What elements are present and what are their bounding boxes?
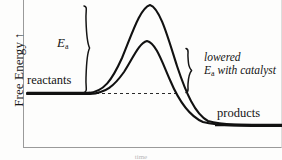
lowered-ea-symbol: E [204, 64, 211, 76]
lowered-line-1: lowered [204, 51, 241, 63]
lowered-ea-suffix: with catalyst [215, 64, 276, 76]
ea-symbol: E [57, 35, 65, 50]
lowered-ea-brace-icon [186, 49, 192, 93]
products-label: products [217, 107, 260, 120]
activation-energy-label: Ea [57, 36, 69, 51]
y-axis-title-text: Free Energy [11, 42, 26, 107]
y-axis-title: Free Energy↑ [12, 22, 26, 118]
ea-brace-icon [84, 6, 90, 93]
reactants-label: reactants [27, 74, 71, 87]
lowered-line-2: Ea with catalyst [204, 64, 276, 78]
ea-subscript: a [65, 42, 69, 51]
up-arrow-icon: ↑ [13, 33, 26, 39]
lowered-activation-energy-label: lowered Ea with catalyst [204, 51, 276, 78]
reaction-energy-diagram: Free Energy↑ reactants products Ea lower… [0, 0, 282, 160]
x-axis-title: time [0, 154, 282, 160]
